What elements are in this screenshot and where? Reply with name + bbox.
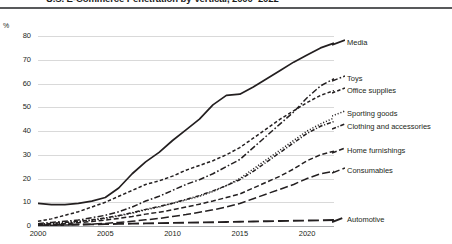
series-label-home-furnishings: Home furnishings [347,146,405,156]
series-label-sporting-goods: Sporting goods [347,109,397,119]
exhibit-header: Exhibit 3.6 U.S. E-Commerce Penetration … [0,0,452,5]
x-axis-tick-label: 2020 [299,229,316,238]
series-line [38,151,334,225]
legend-swatch-icon [332,87,345,95]
legend-swatch-icon [332,167,345,175]
legend-swatch-icon [332,39,345,47]
series-line [38,171,334,225]
x-axis-tick-label: 2015 [231,229,248,238]
series-label-consumables: Consumables [347,166,393,176]
x-axis-line [38,226,334,227]
series-label-office-supplies: Office supplies [347,86,396,96]
legend-swatch-icon [332,123,345,131]
legend-swatch-icon [332,147,345,155]
title-divider [0,7,452,9]
series-line [38,43,334,205]
x-axis-tick-label: 2000 [30,229,47,238]
legend-swatch-icon [332,110,345,118]
series-lines [0,36,452,226]
series-line [38,122,334,225]
legend-swatch-icon [332,75,345,83]
series-label-toys: Toys [347,74,362,84]
x-axis-tick-label: 2010 [164,229,181,238]
x-axis-tick-label: 2005 [97,229,114,238]
legend-swatch-icon [332,216,345,224]
series-label-media: Media [347,38,367,48]
y-axis-unit-label: % [3,22,9,29]
series-line [38,91,334,222]
series-label-automotive: Automotive [347,215,385,225]
exhibit-title-text: U.S. E-Commerce Penetration by Vertical,… [46,0,279,4]
series-label-clothing-and-accessories: Clothing and accessories [347,122,431,132]
